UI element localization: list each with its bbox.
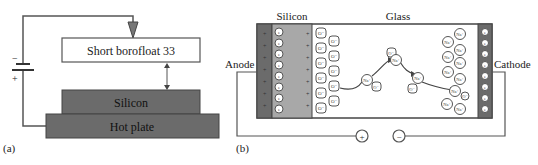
svg-text:O⁻: O⁻ [318,61,325,66]
svg-text:O⁻: O⁻ [318,91,325,96]
wire-bottom [23,70,46,126]
svg-text:O⁻: O⁻ [331,39,338,44]
svg-text:Na⁺: Na⁺ [456,48,464,53]
svg-text:e: e [484,85,486,90]
battery-icon [12,64,34,70]
svg-text:O⁻: O⁻ [331,54,338,59]
svg-text:O⁻: O⁻ [318,76,325,81]
svg-text:O⁻: O⁻ [331,99,338,104]
svg-text:−: − [396,132,401,142]
panel-b: ++++ +++ ++++ +++ eee eee ee [225,10,531,155]
svg-text:Na⁺: Na⁺ [444,70,452,75]
negative-terminal-icon: − [393,130,405,142]
svg-text:O⁻: O⁻ [318,46,325,51]
svg-text:Na⁺: Na⁺ [414,76,422,81]
battery-plus-label: + [12,73,18,84]
diagram-canvas: − + Short borofloat 33 Silicon Hot plate… [0,0,538,165]
panel-b-silicon-label: Silicon [276,10,308,22]
panel-b-label: (b) [236,142,249,155]
svg-text:Na⁺: Na⁺ [392,58,400,63]
svg-text:O⁻: O⁻ [318,31,325,36]
panel-b-glass-label: Glass [386,10,410,22]
svg-text:Na⁺: Na⁺ [451,89,459,94]
svg-text:+: + [359,132,364,142]
anode-label: Anode [225,58,254,70]
panel-a-label: (a) [3,142,16,155]
svg-text:O⁻: O⁻ [462,94,468,99]
svg-text:Na⁺: Na⁺ [456,77,464,82]
svg-text:Na⁺: Na⁺ [456,107,464,112]
svg-text:e: e [484,52,486,57]
svg-text:O⁻: O⁻ [331,69,338,74]
probe-arrow-icon [128,22,138,38]
battery-minus-label: − [12,53,18,64]
svg-text:O⁻: O⁻ [409,87,415,92]
svg-text:e: e [484,96,486,101]
svg-text:Na⁺: Na⁺ [456,61,464,66]
svg-text:e: e [484,63,486,68]
positive-terminal-icon: + [356,130,368,142]
svg-text:e: e [484,74,486,79]
svg-text:e: e [484,41,486,46]
hot-plate-label: Hot plate [110,120,154,134]
svg-text:e: e [484,107,486,112]
svg-text:Na⁺: Na⁺ [444,40,452,45]
cathode-electrode [478,24,492,118]
svg-text:e: e [484,30,486,35]
svg-text:Na⁺: Na⁺ [444,55,452,60]
gap-double-arrow-icon [164,63,170,90]
cathode-label: Cathode [494,58,531,70]
svg-text:O⁻: O⁻ [331,84,338,89]
svg-text:O⁻: O⁻ [318,106,325,111]
svg-text:Na⁺: Na⁺ [363,78,371,83]
svg-text:Na⁺: Na⁺ [456,32,464,37]
svg-text:Na⁺: Na⁺ [443,102,451,107]
silicon-label: Silicon [114,96,148,110]
svg-text:O⁻: O⁻ [388,51,394,56]
svg-text:O⁻: O⁻ [373,85,379,90]
glass-label: Short borofloat 33 [87,44,175,58]
panel-a: − + Short borofloat 33 Silicon Hot plate… [3,16,219,155]
